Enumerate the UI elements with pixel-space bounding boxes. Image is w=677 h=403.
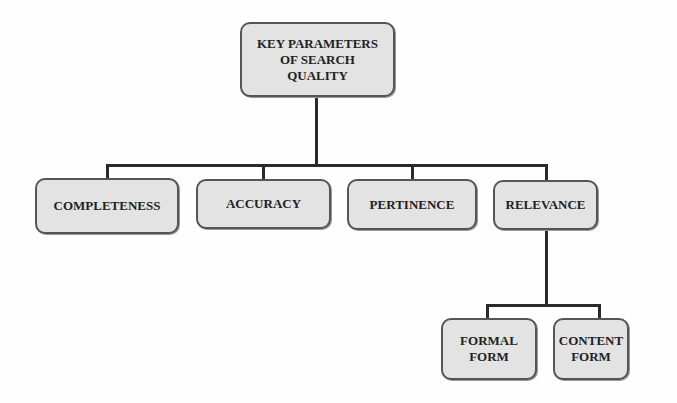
node-content-form: CONTENT FORM [553,318,629,380]
connector-accuracy [262,164,265,180]
connector-level2-horizontal [486,304,601,307]
node-completeness: COMPLETENESS [35,178,179,234]
node-formal-form: FORMAL FORM [441,318,537,380]
connector-content-form [598,304,601,319]
node-accuracy: ACCURACY [196,179,331,229]
node-relevance: RELEVANCE [493,180,598,230]
node-pertinence: PERTINENCE [347,179,477,230]
connector-pertinence [411,164,414,180]
connector-completeness [106,164,109,179]
node-root: KEY PARAMETERS OF SEARCH QUALITY [240,22,395,97]
diagram-canvas: KEY PARAMETERS OF SEARCH QUALITY COMPLET… [0,0,677,403]
connector-root-down [315,96,318,166]
connector-level1-horizontal [106,164,548,167]
connector-relevance-down [545,229,548,306]
connector-relevance [545,164,548,181]
connector-formal-form [486,304,489,319]
